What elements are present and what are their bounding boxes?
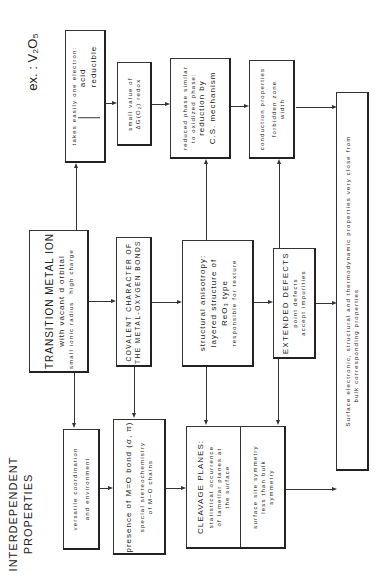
arrow-right-icon [332,301,337,305]
connector [206,367,207,421]
arrow-down-icon [204,420,208,425]
connector [279,164,280,248]
box-conduction: conduction properties forbidden zone wid… [249,60,295,159]
text-line: of lamellar planes at [215,440,223,534]
connector [89,301,113,302]
box-cleavage-planes: CLEAVAGE PLANES: statistical occurrence … [186,426,286,549]
text-line: Surface electronic, structural and therm… [344,135,352,426]
box-transition-metal: TRANSITION METAL ION with vacant d orbit… [29,230,89,373]
box-text: EXTENDED DEFECTS point defects accept im… [281,252,307,354]
text-line: EXTENDED DEFECTS [281,252,291,354]
connector [316,303,333,304]
title-line-1: INTERDEPENDENT [6,444,21,584]
text-line: responsible for texture [230,255,238,351]
text-line: presence of M=O bond (σ, π) [124,421,135,552]
text-line: high charge [67,249,75,294]
connector [166,488,182,489]
text-line: conduction properties [257,68,265,151]
arrow-right-icon [332,105,337,109]
box-text: presence of M=O bond (σ, π) special ster… [124,421,154,552]
cleavage-right-panel: surface site symmetry less than bulk sym… [241,427,284,547]
box-extended-defects: EXTENDED DEFECTS point defects accept im… [273,248,316,359]
text-line: to oxidized phase: [189,66,197,150]
box-presence-mo-bond: presence of M=O bond (σ, π) special ster… [113,419,166,555]
arrow-right-icon [108,486,113,490]
text-line: bulk corresponding properties [352,135,360,426]
box-covalent-character: COVALENT CHARACTER OF THE METAL-OXYGEN B… [116,237,152,367]
arrow-up-icon [277,159,281,164]
diagram-title: INTERDEPENDENT PROPERTIES [6,444,38,584]
connector [278,359,279,421]
box-reduced-phase: reduced phase similar to oxidized phase:… [170,58,231,159]
arrow-down-icon [72,423,76,428]
box-text: CLEAVAGE PLANES: statistical occurrence … [196,440,231,534]
connector [134,367,135,414]
text-line: width [278,68,286,151]
text-line: takes easily one electron: [70,46,78,146]
connector [206,164,207,240]
box-text: Surface electronic, structural and therm… [344,135,360,426]
box-text: COVALENT CHARACTER OF THE METAL-OXYGEN B… [125,240,143,364]
box-text: takes easily one electron: acid reducibl… [70,46,100,146]
arrow-right-icon [268,300,273,304]
box-versatile-coordination: versatile coordination and environment [63,429,100,550]
text-line: ΔG(O₂) redox [134,77,142,130]
arrow-right-icon [165,102,170,106]
text-line: TRANSITION METAL ION [42,233,56,369]
connector [152,302,179,303]
box-text: reduced phase similar to oxidized phase:… [181,66,219,150]
connector [296,107,333,108]
box-text: small value of ΔG(O₂) redox [126,77,142,130]
text-line: and environment [83,447,91,530]
text-line: less than bulk [258,445,266,529]
box-takes-electron: takes easily one electron: acid reducibl… [65,30,106,163]
text-group: small ionic radius high charge [67,249,75,369]
box-text: surface site symmetry less than bulk sym… [250,445,274,529]
text-line: versatile coordination [71,447,79,530]
cleavage-left-panel: CLEAVAGE PLANES: statistical occurrence … [187,427,240,547]
connector [231,106,245,107]
box-structural-anisotropy: structural anisotropy: layered structure… [182,240,254,367]
text-line: acid [78,46,89,87]
box-text: conduction properties forbidden zone wid… [257,68,285,151]
text-line: point defects [291,252,299,354]
text-line: of M–O chains [146,421,154,552]
box-text: structural anisotropy: layered structure… [197,255,237,351]
arrow-up-icon [74,163,78,168]
text-line: COVALENT CHARACTER OF [125,240,134,364]
connector [74,373,75,424]
box-small-delta-g: small value of ΔG(O₂) redox [117,62,152,146]
arrow-down-icon [276,420,280,425]
text-line: CLEAVAGE PLANES: [196,440,207,534]
connector [152,104,166,105]
text-line: the surface [223,440,231,534]
arrow-right-icon [244,104,249,108]
arrow-right-icon [112,101,117,105]
text-line: symmetry [267,445,275,529]
text-line: THE METAL-OXYGEN BONDS [134,240,143,364]
box-text: TRANSITION METAL ION with vacant d orbit… [42,233,74,369]
text-line: statistical occurrence [207,440,215,534]
arrow-right-icon [177,300,182,304]
text-line: layered structure of [208,255,219,351]
connector [286,489,333,490]
text-line: ReO₃ type [219,255,230,351]
text-group: acid reducible [78,46,100,118]
text-line: reducible [89,46,100,87]
text-line: C.S. mechanism [208,66,219,150]
text-line: reduction by [197,66,208,150]
text-line: accept impurities [299,252,307,354]
text-line: special stereochemistry [138,421,146,552]
arrow-down-icon [132,413,136,418]
text-line: with vacant d orbital [56,233,67,369]
example-label: ex. : V₂O₅ [25,22,45,102]
arrow-right-icon [181,486,186,490]
text-line: small value of [126,77,134,130]
title-line-2: PROPERTIES [21,444,36,584]
box-text: versatile coordination and environment [71,447,91,530]
connector [76,168,77,230]
text-line: structural anisotropy: [197,255,208,351]
arrow-right-icon [111,299,116,303]
text-line: reduced phase similar [181,66,189,150]
arrow-up-icon [204,159,208,164]
